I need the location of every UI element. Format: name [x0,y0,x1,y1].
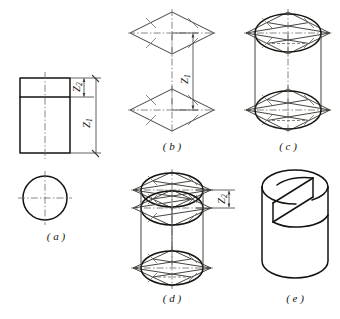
panel-caption-c: ( c ) [279,140,297,153]
panel-caption-b: ( b ) [163,140,182,153]
technical-drawing-figure: .obj {stroke:#15130f;stroke-width:1.5;fi… [0,0,340,319]
dimension-label-z2: Z2 [70,82,84,92]
panel-d: Z2 ( d ) [131,169,235,305]
dimension-z2-panel-d: Z2 [196,190,235,208]
cylinder-body [262,187,328,278]
dimension-label-z2: Z2 [215,194,229,204]
slot-lower-edge [273,197,313,222]
panel-e: ( e ) [262,170,328,305]
cylinder-top-rim-front-right [312,187,328,200]
drawing-canvas: .obj {stroke:#15130f;stroke-width:1.5;fi… [0,0,340,319]
panel-a-front-view [20,72,70,159]
dimension-z1-panel-b: Z1 [172,33,198,110]
panel-caption-d: ( d ) [163,292,182,305]
panel-a: Z2 Z1 ( a ) [18,72,101,243]
panel-caption-e: ( e ) [286,292,304,305]
panel-c: ( c ) [244,9,332,153]
dimension-label-z1: Z1 [80,118,94,128]
panel-a-top-view [18,171,72,225]
panel-b: Z1 ( b ) [128,9,216,153]
panel-caption-a: ( a ) [47,230,66,243]
slot-upper-edge [273,178,313,203]
cylinder-top-rim-front-left [262,187,296,204]
dimension-label-z1: Z1 [178,74,192,84]
